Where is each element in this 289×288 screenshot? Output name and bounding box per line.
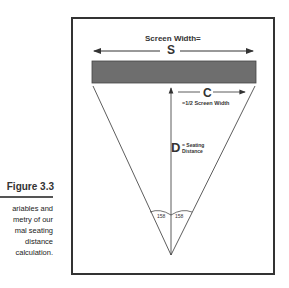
left-angle-label: 158 — [157, 213, 165, 219]
screen-width-label: Screen Width= — [145, 34, 201, 43]
figure-caption: ariables and metry of our mal seating di… — [0, 203, 53, 258]
screen-bar — [92, 61, 256, 83]
distance-label: = SeatingDistance — [182, 142, 204, 154]
caption-line: mal seating — [0, 225, 53, 236]
right-angle-label: 158 — [175, 213, 183, 219]
distance-label-line2: Distance — [182, 148, 203, 154]
caption-line: ariables and — [0, 203, 53, 214]
half-symbol: C — [202, 86, 213, 100]
figure-title-rule — [0, 196, 53, 198]
caption-line: calculation. — [0, 247, 53, 258]
half-label: =1/2 Screen Width — [182, 100, 229, 106]
figure-title: Figure 3.3 — [0, 181, 54, 192]
caption-line: metry of our — [0, 214, 53, 225]
distance-symbol: D — [171, 140, 180, 155]
caption-line: distance — [0, 236, 53, 247]
screen-symbol: S — [165, 43, 177, 57]
